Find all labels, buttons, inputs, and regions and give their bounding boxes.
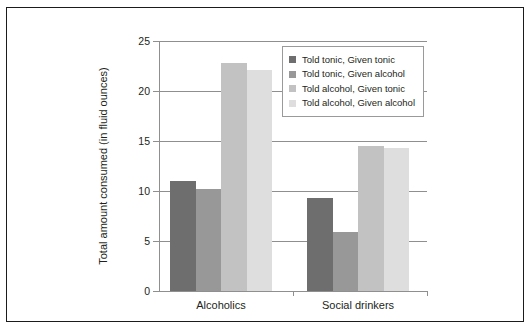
bar <box>333 232 359 291</box>
legend-swatch-icon <box>289 100 296 107</box>
y-tick-label: 0 <box>144 285 150 297</box>
legend-swatch-icon <box>289 71 296 78</box>
y-axis-title-text: Total amount consumed (in fluid ounces) <box>97 67 109 265</box>
x-axis-category-label: Alcoholics <box>196 299 246 311</box>
y-tick-mark <box>153 241 159 242</box>
legend-item: Told alcohol, Given alcohol <box>289 96 415 110</box>
x-tick-mark <box>293 291 294 296</box>
y-tick-mark <box>153 41 159 42</box>
y-tick-mark <box>153 141 159 142</box>
y-tick-mark <box>153 191 159 192</box>
figure: Total amount consumed (in fluid ounces) … <box>0 0 532 331</box>
y-tick-label: 20 <box>138 85 150 97</box>
bar <box>384 148 410 291</box>
legend-label: Told alcohol, Given alcohol <box>302 98 415 108</box>
y-tick-mark <box>153 291 159 292</box>
bar <box>247 70 273 291</box>
legend: Told tonic, Given tonicTold tonic, Given… <box>282 46 424 117</box>
gridline <box>159 41 427 42</box>
bar <box>196 189 222 291</box>
legend-label: Told tonic, Given tonic <box>302 55 395 65</box>
figure-border: Total amount consumed (in fluid ounces) … <box>6 7 524 322</box>
legend-label: Told tonic, Given alcohol <box>302 69 405 79</box>
y-axis-title: Total amount consumed (in fluid ounces) <box>95 41 111 291</box>
legend-label: Told alcohol, Given tonic <box>302 84 405 94</box>
x-axis-category-label: Social drinkers <box>322 299 394 311</box>
y-tick-label: 15 <box>138 135 150 147</box>
y-tick-label: 25 <box>138 35 150 47</box>
legend-swatch-icon <box>289 56 296 63</box>
legend-item: Told alcohol, Given tonic <box>289 82 415 96</box>
bar <box>221 63 247 291</box>
gridline <box>159 141 427 142</box>
bar <box>307 198 333 291</box>
y-tick-label: 5 <box>144 235 150 247</box>
legend-swatch-icon <box>289 85 296 92</box>
legend-item: Told tonic, Given alcohol <box>289 67 415 81</box>
x-tick-mark <box>427 291 428 296</box>
bar <box>358 146 384 291</box>
y-tick-label: 10 <box>138 185 150 197</box>
y-tick-mark <box>153 91 159 92</box>
y-axis-line <box>159 41 160 291</box>
legend-item: Told tonic, Given tonic <box>289 53 415 67</box>
bar <box>170 181 196 291</box>
